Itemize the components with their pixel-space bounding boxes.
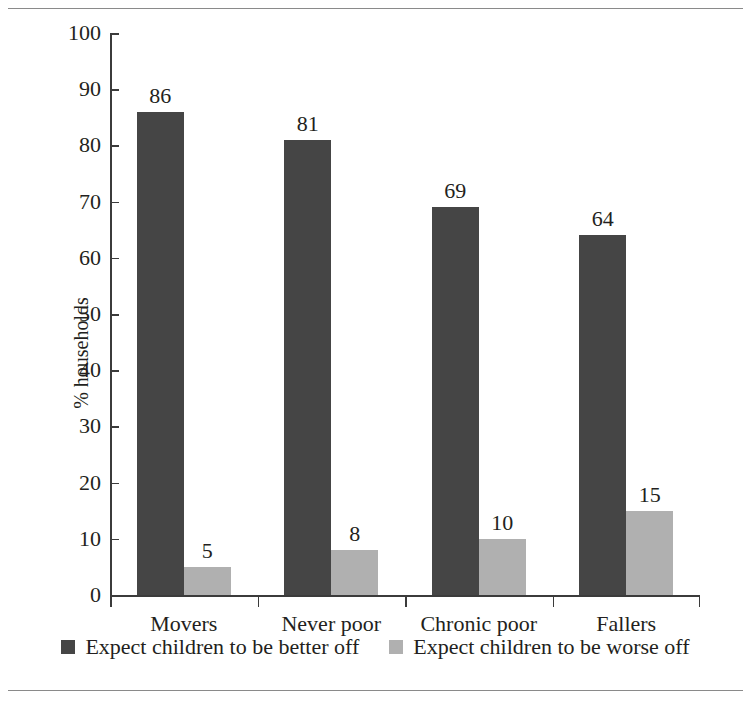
y-axis-tick-label: 100 [68, 22, 101, 44]
y-axis-tick [110, 426, 119, 428]
y-axis-tick-label: 70 [79, 191, 101, 213]
x-axis-tick [699, 595, 701, 607]
y-axis-tick-label: 20 [79, 472, 101, 494]
y-axis-tick [110, 202, 119, 204]
bar-better-off: 81 [284, 140, 331, 595]
x-axis-tick [258, 595, 260, 607]
legend-label-better-off: Expect children to be better off [85, 636, 359, 658]
x-axis-tick [553, 595, 555, 607]
bar-value-label: 81 [297, 113, 319, 135]
y-axis-tick [110, 258, 119, 260]
bar-better-off: 69 [432, 207, 479, 595]
y-axis-tick [110, 314, 119, 316]
x-axis-tick [405, 595, 407, 607]
y-axis-tick [110, 145, 119, 147]
bar-value-label: 15 [639, 484, 661, 506]
y-axis-tick-label: 30 [79, 415, 101, 437]
chart-legend: Expect children to be better off Expect … [0, 636, 751, 658]
light-swatch-icon [389, 640, 403, 654]
bottom-divider-rule [8, 690, 743, 691]
y-axis-tick-label: 40 [79, 359, 101, 381]
y-axis-tick-label: 90 [79, 78, 101, 100]
bar-value-label: 86 [149, 85, 171, 107]
bar-worse-off: 10 [479, 539, 526, 595]
y-axis-tick [110, 89, 119, 91]
y-axis-tick [110, 370, 119, 372]
bar-worse-off: 5 [184, 567, 231, 595]
bar-value-label: 10 [491, 512, 513, 534]
y-axis-tick [110, 33, 119, 35]
bar-value-label: 64 [592, 208, 614, 230]
legend-item-worse-off: Expect children to be worse off [389, 636, 689, 658]
y-axis-tick-label: 50 [79, 303, 101, 325]
top-divider-rule [8, 8, 743, 9]
y-axis-tick-label: 60 [79, 247, 101, 269]
plot-area: 0102030405060708090100 86581869106415 Mo… [110, 33, 700, 595]
legend-label-worse-off: Expect children to be worse off [413, 636, 689, 658]
y-axis-tick-label: 0 [90, 584, 101, 606]
bar-better-off: 64 [579, 235, 626, 595]
y-axis-tick [110, 539, 119, 541]
x-axis-tick [110, 595, 112, 607]
bar-value-label: 69 [444, 180, 466, 202]
dark-swatch-icon [61, 640, 75, 654]
bar-value-label: 8 [349, 523, 360, 545]
bar-worse-off: 8 [331, 550, 378, 595]
bar-better-off: 86 [137, 112, 184, 595]
y-axis-tick-label: 80 [79, 134, 101, 156]
y-axis-tick-label: 10 [79, 528, 101, 550]
bar-value-label: 5 [202, 540, 213, 562]
y-axis-tick [110, 483, 119, 485]
legend-item-better-off: Expect children to be better off [61, 636, 359, 658]
chart-figure: % households 0102030405060708090100 8658… [0, 0, 751, 706]
bar-worse-off: 15 [626, 511, 673, 595]
